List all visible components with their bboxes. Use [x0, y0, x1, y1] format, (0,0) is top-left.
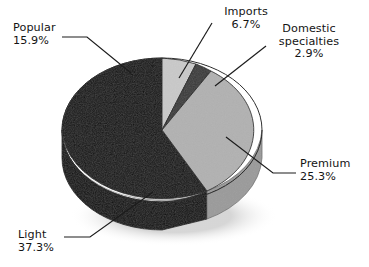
slice-label-domestic-specialties: Domestic specialties 2.9%	[268, 23, 350, 61]
slice-label-imports-name: Imports	[215, 6, 277, 19]
slice-label-premium-name: Premium	[300, 158, 350, 171]
slice-label-light-name: Light	[18, 229, 54, 242]
pie-slice-popular	[62, 58, 162, 130]
slice-label-premium-value: 25.3%	[300, 171, 350, 184]
leader-line-domestic	[215, 46, 266, 86]
slice-label-light-value: 37.3%	[18, 242, 54, 255]
slice-label-light: Light 37.3%	[18, 229, 54, 254]
slice-label-domestic-value: 2.9%	[268, 48, 350, 61]
slice-label-popular-value: 15.9%	[13, 35, 56, 48]
slice-label-premium: Premium 25.3%	[300, 158, 350, 183]
slice-label-domestic-name-line1: Domestic	[268, 23, 350, 36]
pie-chart-figure: Popular 15.9% Imports 6.7% Domestic spec…	[0, 0, 369, 267]
slice-label-popular-name: Popular	[13, 22, 56, 35]
slice-label-popular: Popular 15.9%	[13, 22, 56, 47]
